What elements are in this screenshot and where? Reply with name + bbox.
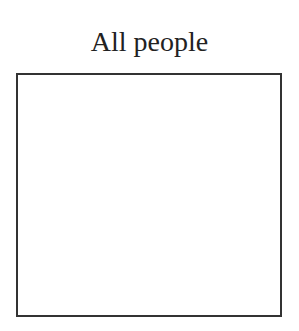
set-box <box>16 73 282 317</box>
diagram-title: All people <box>0 26 299 58</box>
